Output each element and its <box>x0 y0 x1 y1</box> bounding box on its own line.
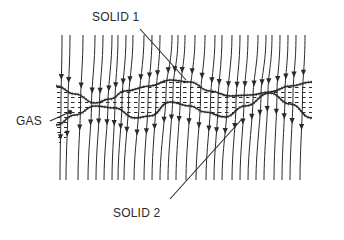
gas-label: GAS <box>16 114 42 128</box>
diagram-canvas: SOLID 1 SOLID 2 GAS <box>0 0 344 240</box>
solid-2-label: SOLID 2 <box>113 206 160 220</box>
field-lines-diagram <box>0 0 344 240</box>
solid-1-label: SOLID 1 <box>92 10 139 24</box>
field-lines <box>58 35 306 180</box>
